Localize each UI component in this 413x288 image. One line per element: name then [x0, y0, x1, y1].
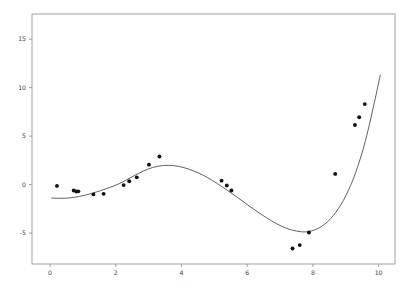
data-point [357, 115, 361, 119]
x-axis-ticks: 0246810 [48, 264, 382, 276]
data-points-layer [55, 102, 367, 250]
data-point [229, 189, 233, 193]
fitted-curve [52, 75, 381, 232]
data-point [127, 179, 131, 183]
y-tick-label: 15 [18, 35, 26, 42]
plot-canvas: 0246810 -5051015 [0, 0, 413, 288]
y-tick-label: -5 [20, 229, 26, 236]
data-point [147, 163, 151, 167]
x-tick-label: 4 [180, 269, 184, 276]
data-point [291, 247, 295, 251]
data-point [158, 155, 162, 159]
data-point [225, 184, 229, 188]
y-tick-label: 0 [22, 181, 26, 188]
data-point [55, 184, 59, 188]
data-point [91, 192, 95, 196]
data-point [220, 179, 224, 183]
x-tick-label: 8 [311, 269, 315, 276]
data-point [307, 231, 311, 235]
data-point [122, 183, 126, 187]
data-point [102, 192, 106, 196]
x-tick-label: 2 [114, 269, 118, 276]
data-point [363, 102, 367, 106]
x-tick-label: 6 [245, 269, 249, 276]
data-point [135, 175, 139, 179]
y-tick-label: 5 [22, 132, 26, 139]
data-point [298, 243, 302, 247]
x-tick-label: 0 [48, 269, 52, 276]
fit-curve-path [52, 75, 381, 232]
y-tick-label: 10 [18, 84, 26, 91]
plot-frame [32, 14, 395, 264]
scatter-plot-figure: 0246810 -5051015 [0, 0, 413, 288]
data-point [353, 123, 357, 127]
data-point [333, 172, 337, 176]
data-point [76, 189, 80, 193]
y-axis-ticks: -5051015 [18, 35, 32, 236]
x-tick-label: 10 [375, 269, 383, 276]
